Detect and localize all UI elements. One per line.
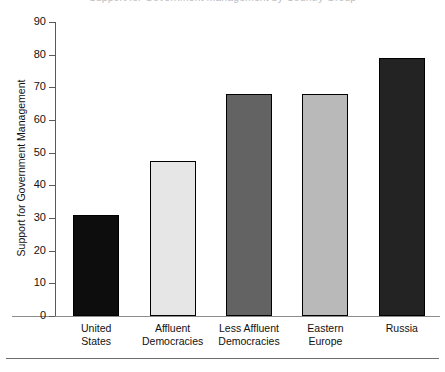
y-tick-mark [49,283,55,284]
bar-eastern-europe [302,94,348,316]
bar-russia [379,58,425,316]
bar-affluent-democracies [150,161,196,316]
y-tick-label: 90 [14,16,46,28]
y-tick-mark [49,22,55,23]
bar-less-affluent-democracies [226,94,272,316]
y-tick-mark [49,251,55,252]
bottom-rule [6,358,439,359]
bar-united-states [73,215,119,316]
x-category-label: Russia [342,322,445,335]
y-axis-title: Support for Government Management [15,53,27,283]
y-tick-mark [49,87,55,88]
y-tick-label-text: 0 [20,310,46,321]
plot-area: 0102030405060708090 Support for Governme… [0,0,445,372]
x-category-label-line: Russia [342,322,445,335]
y-tick-label: 0 [14,310,46,322]
y-axis-line [55,22,56,317]
y-tick-mark [49,153,55,154]
x-category-label-line: Europe [265,335,385,348]
x-axis-line [12,316,440,317]
y-tick-label-text: 90 [20,16,46,27]
y-tick-mark [49,218,55,219]
y-tick-mark [49,185,55,186]
y-tick-mark [49,316,55,317]
y-tick-mark [49,120,55,121]
bar-chart-figure: Support for Government Management by Cou… [0,0,445,372]
y-tick-mark [49,55,55,56]
